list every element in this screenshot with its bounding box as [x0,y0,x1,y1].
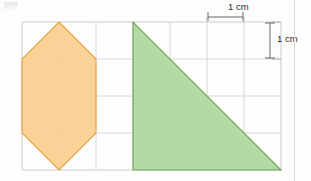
figure-plate [0,0,311,181]
dimension-label-horizontal: 1 cm [228,1,249,12]
credit-divider [294,0,295,181]
orange-hexagon [22,22,96,170]
dimension-horizontal [207,12,244,22]
figure-container: 1 cm 1 cm ERICSON GUILHERME LUCIANO [0,0,311,181]
